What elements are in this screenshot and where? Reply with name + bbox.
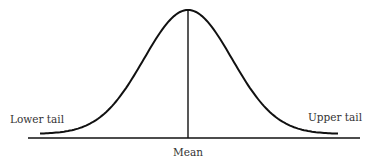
normal-curve-diagram: Lower tail Upper tail Mean <box>0 0 376 164</box>
upper-tail-label: Upper tail <box>308 111 363 123</box>
mean-label: Mean <box>173 146 203 158</box>
lower-tail-label: Lower tail <box>10 113 65 125</box>
bell-curve <box>40 10 338 134</box>
